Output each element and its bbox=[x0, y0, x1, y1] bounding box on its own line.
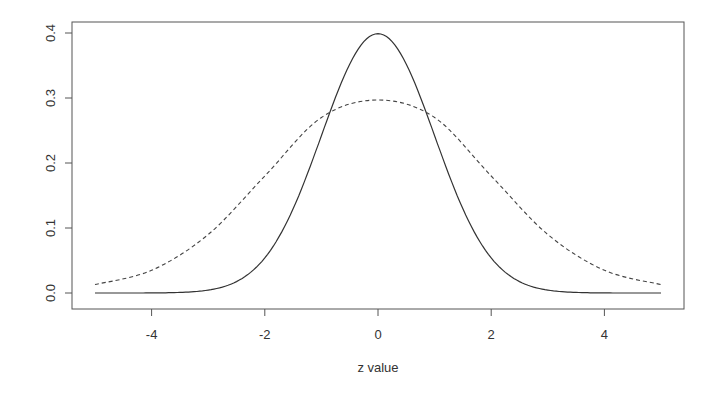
plot-area bbox=[72, 22, 684, 309]
x-axis: -4-2024 bbox=[146, 309, 608, 342]
density-chart: 0.00.10.20.30.4 -4-2024 z value bbox=[0, 0, 712, 401]
x-axis-title: z value bbox=[357, 360, 398, 375]
x-tick-label: -4 bbox=[146, 327, 158, 342]
y-tick-label: 0.4 bbox=[43, 24, 58, 42]
y-tick-label: 0.0 bbox=[43, 284, 58, 302]
y-tick-label: 0.3 bbox=[43, 89, 58, 107]
solid-curve bbox=[95, 34, 661, 293]
dashed-curve bbox=[95, 100, 661, 285]
y-tick-label: 0.1 bbox=[43, 219, 58, 237]
x-tick-label: 2 bbox=[488, 327, 495, 342]
x-tick-label: 4 bbox=[601, 327, 608, 342]
curves bbox=[95, 34, 661, 293]
y-tick-label: 0.2 bbox=[43, 154, 58, 172]
y-axis: 0.00.10.20.30.4 bbox=[43, 24, 72, 302]
x-tick-label: 0 bbox=[374, 327, 381, 342]
x-tick-label: -2 bbox=[259, 327, 271, 342]
